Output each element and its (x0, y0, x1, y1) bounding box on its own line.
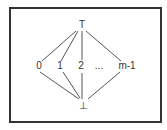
edge-top-m1 (86, 31, 121, 61)
edge-top-1 (61, 31, 78, 61)
node-ellipsis: ... (95, 61, 103, 71)
node-1: 1 (57, 61, 63, 71)
node-bottom: ⊥ (79, 101, 88, 111)
edge-top-0 (42, 31, 76, 61)
node-0: 0 (36, 61, 42, 71)
node-top: T (79, 20, 85, 30)
edge-m1-bottom (88, 72, 120, 99)
edge-0-bottom (40, 72, 79, 99)
node-m-1: m-1 (118, 61, 135, 71)
node-2: 2 (78, 61, 84, 71)
